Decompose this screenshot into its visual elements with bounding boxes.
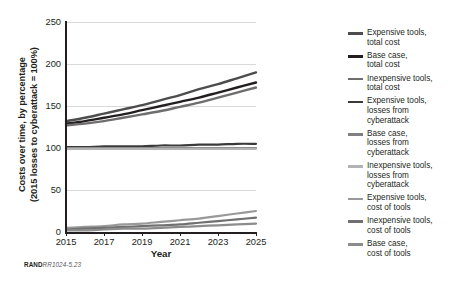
x-axis-tick-label: 2021 <box>170 237 191 247</box>
legend-label: Inexpensive tools, cost of tools <box>367 216 433 235</box>
series-line <box>66 144 256 147</box>
plot-area: 050100150200250 201520172019202120232025 <box>66 22 256 232</box>
legend-item[interactable]: Inexpensive tools, cost of tools <box>348 216 448 235</box>
legend-item[interactable]: Expensive tools, losses from cyberattack <box>348 96 448 125</box>
y-axis-tick-label: 150 <box>45 101 61 111</box>
x-axis-tick-label: 2019 <box>132 237 153 247</box>
legend-label: Expensive tools, losses from cyberattack <box>367 96 427 125</box>
y-axis-tick-label: 200 <box>45 59 61 69</box>
x-axis-line <box>65 232 256 234</box>
credit-figure-id: RR1024-5.23 <box>43 261 82 268</box>
y-axis-title-line-1: Costs over time, by percentage <box>17 57 27 192</box>
legend-label: Inexpensive tools, total cost <box>367 74 433 93</box>
credit-org: RAND <box>24 261 43 268</box>
x-axis-tick-label: 2025 <box>246 237 267 247</box>
legend-label: Base case, cost of tools <box>367 239 411 258</box>
y-axis-tick-label: 100 <box>45 143 61 153</box>
legend-swatch <box>348 220 363 223</box>
legend-item[interactable]: Expensive tools, cost of tools <box>348 193 448 212</box>
y-axis-tick-label: 0 <box>56 227 61 237</box>
x-axis-tick-label: 2017 <box>94 237 115 247</box>
legend-swatch <box>348 165 363 168</box>
legend-item[interactable]: Base case, total cost <box>348 51 448 70</box>
legend-label: Base case, total cost <box>367 51 408 70</box>
figure-credit: RANDRR1024-5.23 <box>24 261 81 268</box>
series-line <box>66 82 256 123</box>
y-axis-title-line-2: (2015 losses to cyberattack = 100%) <box>29 20 41 230</box>
x-axis-tick-mark <box>256 232 257 236</box>
legend-swatch <box>348 198 363 201</box>
x-axis-tick-label: 2015 <box>56 237 77 247</box>
legend-item[interactable]: Base case, losses from cyberattack <box>348 129 448 158</box>
y-axis-line <box>65 21 67 233</box>
legend-label: Expensive tools, cost of tools <box>367 193 427 212</box>
legend-swatch <box>348 78 363 81</box>
data-lines <box>66 22 256 232</box>
legend-swatch <box>348 55 363 58</box>
legend-item[interactable]: Inexpensive tools, total cost <box>348 74 448 93</box>
y-axis-title: Costs over time, by percentage (2015 los… <box>17 20 40 230</box>
x-axis-tick-label: 2023 <box>208 237 229 247</box>
legend: Expensive tools, total costBase case, to… <box>348 28 448 262</box>
legend-item[interactable]: Expensive tools, total cost <box>348 28 448 47</box>
legend-item[interactable]: Base case, cost of tools <box>348 239 448 258</box>
x-axis-title: Year <box>66 248 256 259</box>
legend-label: Expensive tools, total cost <box>367 28 427 47</box>
legend-swatch <box>348 101 363 104</box>
legend-swatch <box>348 243 363 246</box>
legend-label: Inexpensive tools, losses from cyberatta… <box>367 161 433 190</box>
legend-label: Base case, losses from cyberattack <box>367 129 409 158</box>
figure-container: Costs over time, by percentage (2015 los… <box>0 0 451 283</box>
legend-item[interactable]: Inexpensive tools, losses from cyberatta… <box>348 161 448 190</box>
legend-swatch <box>348 133 363 136</box>
y-axis-tick-label: 50 <box>51 185 61 195</box>
series-line <box>66 72 256 121</box>
y-axis-tick-label: 250 <box>45 17 61 27</box>
legend-swatch <box>348 32 363 35</box>
